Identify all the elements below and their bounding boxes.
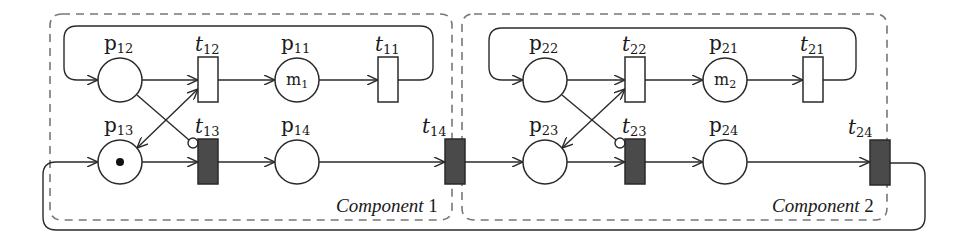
- place-p22: p22: [523, 31, 567, 102]
- svg-text:t21: t21: [800, 32, 825, 57]
- place-p12: p12: [98, 31, 142, 102]
- svg-text:t12: t12: [195, 32, 220, 57]
- component-1-label: Component 1: [336, 195, 438, 216]
- svg-text:p12: p12: [104, 31, 133, 56]
- svg-text:t23: t23: [622, 114, 647, 139]
- svg-text:p23: p23: [529, 113, 558, 138]
- transition-t22: t22: [622, 32, 647, 102]
- svg-text:p13: p13: [104, 113, 133, 138]
- transition-t21: t21: [800, 32, 825, 102]
- svg-text:p24: p24: [709, 113, 738, 138]
- petri-net-diagram: Component 1 Component 2: [0, 0, 968, 250]
- svg-text:t11: t11: [375, 32, 400, 57]
- place-p11: p11 m1: [275, 31, 319, 102]
- svg-text:t13: t13: [195, 114, 220, 139]
- place-p24: p24: [703, 113, 747, 184]
- token: [116, 158, 124, 166]
- svg-text:p11: p11: [281, 31, 310, 56]
- svg-text:p14: p14: [281, 113, 310, 138]
- transition-t23: t23: [622, 114, 647, 184]
- transition-t14: t14: [422, 114, 465, 184]
- component-2-label: Component 2: [772, 195, 874, 216]
- place-p14: p14: [275, 113, 319, 184]
- place-p13: p13: [98, 113, 142, 184]
- place-p21: p21 m2: [703, 31, 747, 102]
- svg-text:p21: p21: [709, 31, 738, 56]
- place-p23: p23: [523, 113, 567, 184]
- svg-text:t24: t24: [848, 115, 873, 140]
- svg-text:t22: t22: [622, 32, 647, 57]
- transition-t13: t13: [195, 114, 220, 184]
- svg-text:p22: p22: [529, 31, 558, 56]
- transition-t12: t12: [195, 32, 220, 102]
- transition-t24: t24: [848, 115, 890, 185]
- svg-text:t14: t14: [422, 114, 447, 139]
- transition-t11: t11: [375, 32, 400, 102]
